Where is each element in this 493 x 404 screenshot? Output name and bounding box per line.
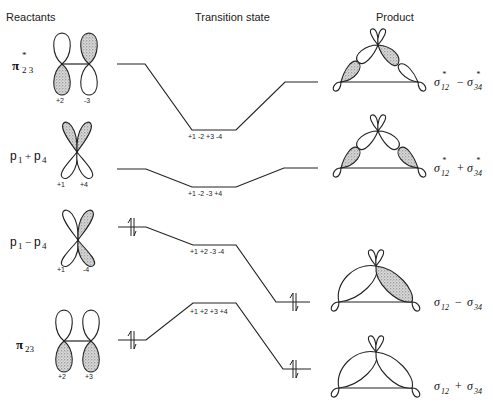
svg-text:+1 -2 +3 -4: +1 -2 +3 -4 bbox=[188, 133, 222, 140]
svg-text:12: 12 bbox=[441, 387, 449, 396]
header-transition-state: Transition state bbox=[195, 11, 270, 23]
svg-text:−: − bbox=[25, 236, 31, 248]
svg-text:−: − bbox=[455, 295, 462, 309]
orbital-sig12s-plus-sig34s bbox=[333, 115, 426, 177]
header-reactants: Reactants bbox=[6, 11, 56, 23]
svg-text:4: 4 bbox=[42, 155, 47, 165]
label-pi23: π 23 bbox=[16, 337, 35, 354]
svg-text:+: + bbox=[457, 161, 464, 175]
svg-text:*: * bbox=[442, 70, 446, 79]
svg-text:1: 1 bbox=[18, 155, 23, 165]
orbital-p1-minus-p4: +1 -4 bbox=[57, 210, 95, 273]
orbital-pi23: +2 +3 bbox=[56, 310, 100, 380]
orbital-p1-plus-p4: +1 +4 bbox=[57, 122, 93, 188]
svg-text:34: 34 bbox=[473, 169, 482, 178]
label-sig12-plus-sig34: σ 12 + σ 34 bbox=[434, 379, 482, 396]
correlation-line-p1-minus-p4: +1 +2 -3 -4 bbox=[118, 227, 310, 302]
label-sig12-minus-sig34: σ 12 − σ 34 bbox=[434, 295, 482, 312]
svg-text:σ: σ bbox=[467, 295, 474, 309]
svg-text:σ: σ bbox=[467, 161, 474, 175]
svg-text:p: p bbox=[34, 149, 41, 163]
svg-text:σ: σ bbox=[434, 295, 441, 309]
svg-text:+1 +2 +3 +4: +1 +2 +3 +4 bbox=[190, 308, 228, 315]
orbital-pi23-star: +2 -3 bbox=[54, 33, 98, 104]
svg-text:*: * bbox=[476, 70, 480, 79]
correlation-line-pi23: +1 +2 +3 +4 bbox=[118, 303, 311, 369]
correlation-diagram: Reactants Transition state Product π * 2… bbox=[0, 0, 493, 404]
svg-text:+2: +2 bbox=[56, 97, 64, 104]
svg-text:p: p bbox=[10, 149, 17, 163]
svg-text:*: * bbox=[442, 156, 446, 165]
svg-text:σ: σ bbox=[434, 75, 441, 89]
svg-text:+2: +2 bbox=[58, 373, 66, 380]
label-p1-plus-p4: p 1 + p 4 bbox=[10, 149, 47, 165]
svg-text:12: 12 bbox=[441, 83, 449, 92]
svg-text:π: π bbox=[16, 337, 23, 352]
svg-text:-4: -4 bbox=[83, 266, 89, 273]
orbital-sig12s-minus-sig34s bbox=[333, 29, 426, 91]
svg-text:*: * bbox=[476, 156, 480, 165]
svg-text:σ: σ bbox=[434, 379, 441, 393]
svg-text:34: 34 bbox=[473, 303, 482, 312]
orbital-sig12-minus-sig34 bbox=[331, 250, 420, 311]
svg-text:+: + bbox=[455, 379, 462, 393]
svg-text:23: 23 bbox=[25, 344, 35, 354]
svg-text:−: − bbox=[457, 75, 464, 89]
svg-text:σ: σ bbox=[434, 161, 441, 175]
svg-text:-3: -3 bbox=[84, 97, 90, 104]
svg-text:12: 12 bbox=[441, 303, 449, 312]
label-p1-minus-p4: p 1 − p 4 bbox=[10, 235, 47, 251]
label-pi23-star: π * 2 3 bbox=[12, 50, 34, 75]
svg-text:σ: σ bbox=[467, 75, 474, 89]
correlation-line-p1-plus-p4: +1 -2 -3 +4 bbox=[117, 168, 318, 197]
svg-text:+: + bbox=[25, 150, 31, 162]
svg-text:12: 12 bbox=[441, 169, 449, 178]
svg-text:+3: +3 bbox=[85, 373, 93, 380]
svg-text:2 3: 2 3 bbox=[22, 65, 34, 75]
svg-text:p: p bbox=[34, 235, 41, 249]
svg-text:34: 34 bbox=[473, 83, 482, 92]
label-sig12s-minus-sig34s: σ 12 * − σ 34 * bbox=[434, 70, 482, 92]
label-sig12s-plus-sig34s: σ 12 * + σ 34 * bbox=[434, 156, 482, 178]
svg-text:+1: +1 bbox=[57, 181, 65, 188]
svg-text:π: π bbox=[12, 58, 19, 73]
svg-text:*: * bbox=[22, 50, 27, 60]
svg-text:+1 +2 -3 -4: +1 +2 -3 -4 bbox=[190, 248, 224, 255]
svg-text:σ: σ bbox=[467, 379, 474, 393]
svg-text:+1: +1 bbox=[57, 266, 65, 273]
svg-text:p: p bbox=[10, 235, 17, 249]
svg-text:1: 1 bbox=[18, 241, 23, 251]
svg-text:+4: +4 bbox=[80, 181, 88, 188]
header-product: Product bbox=[376, 11, 414, 23]
svg-text:+1 -2 -3 +4: +1 -2 -3 +4 bbox=[188, 190, 222, 197]
correlation-line-pi23-star: +1 -2 +3 -4 bbox=[117, 64, 318, 140]
svg-text:4: 4 bbox=[42, 241, 47, 251]
svg-text:34: 34 bbox=[473, 387, 482, 396]
orbital-sig12-plus-sig34 bbox=[331, 336, 420, 397]
